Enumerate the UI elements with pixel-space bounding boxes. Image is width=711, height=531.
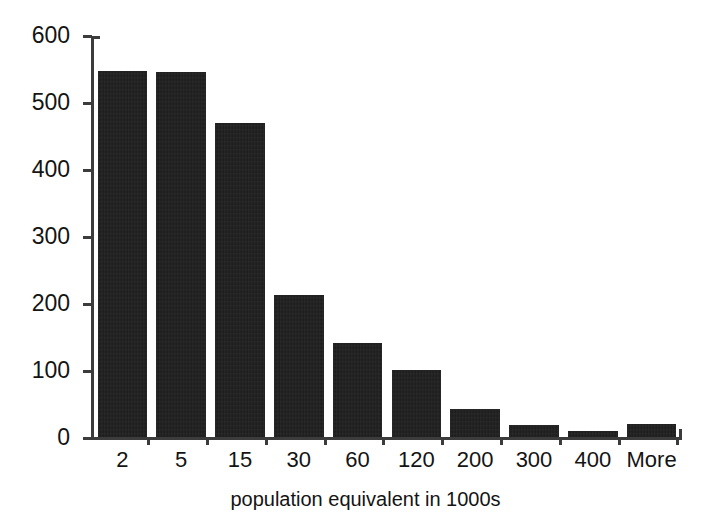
x-axis-right-cap [679, 429, 682, 440]
plot-area [93, 36, 681, 438]
x-axis-tick [265, 437, 268, 445]
x-axis-tick-label: 2 [93, 448, 152, 472]
x-axis-tick [147, 437, 150, 445]
bar [215, 123, 265, 438]
y-axis-tick [83, 102, 92, 105]
x-axis-left-cap [91, 429, 94, 440]
bar [156, 72, 206, 438]
x-axis-tick [676, 437, 679, 445]
y-axis-tick [83, 370, 92, 373]
x-axis-tick-label: 15 [211, 448, 270, 472]
y-axis-tick [83, 236, 92, 239]
bar [98, 71, 148, 438]
x-axis-tick [441, 437, 444, 445]
bar [509, 425, 559, 438]
x-axis-tick-label: 120 [387, 448, 446, 472]
y-axis-tick-label: 100 [0, 359, 70, 382]
x-axis-tick-label: 400 [563, 448, 622, 472]
x-axis-tick-label: 200 [446, 448, 505, 472]
bar-chart: 0100200300400500600 25153060120200300400… [0, 0, 711, 531]
y-axis-tick-label: 400 [0, 158, 70, 181]
x-axis-tick [559, 437, 562, 445]
x-axis-tick [206, 437, 209, 445]
bar [392, 370, 442, 438]
bar [274, 295, 324, 438]
x-axis-tick [500, 437, 503, 445]
x-axis-tick-label: More [622, 448, 681, 472]
y-axis-tick [83, 303, 92, 306]
x-axis-tick-label: 60 [328, 448, 387, 472]
x-axis-tick [618, 437, 621, 445]
x-axis-tick-label: 5 [152, 448, 211, 472]
y-axis-tick-label: 300 [0, 225, 70, 248]
y-axis-tick-label: 500 [0, 91, 70, 114]
x-axis-tick [324, 437, 327, 445]
x-axis-tick-label: 30 [269, 448, 328, 472]
bar [450, 409, 500, 438]
y-axis-tick-label: 600 [0, 24, 70, 47]
x-axis-title-text: population equivalent in 1000s [230, 487, 500, 511]
y-axis-tick [83, 169, 92, 172]
bar [627, 424, 677, 438]
y-axis-tick-label: 0 [0, 426, 70, 449]
y-axis-tick [83, 35, 92, 38]
bar [333, 343, 383, 438]
x-axis-tick [382, 437, 385, 445]
x-axis-title: population equivalent in 1000s [0, 487, 711, 511]
x-axis-line [91, 437, 682, 440]
x-axis-tick-label: 300 [505, 448, 564, 472]
y-axis-tick-label: 200 [0, 292, 70, 315]
